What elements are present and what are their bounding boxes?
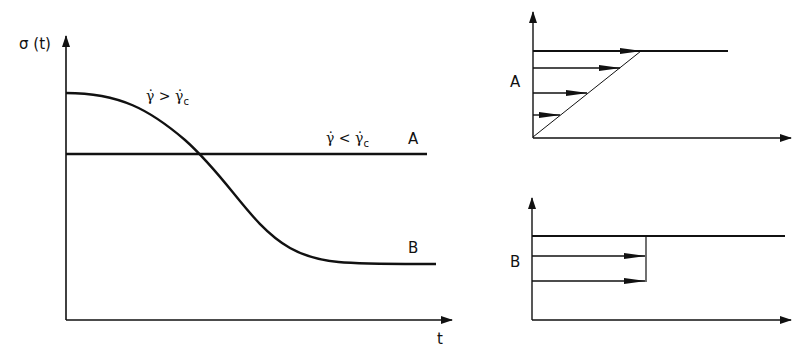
- annotation-gamma-greater: γ̇ > γ̇c: [146, 89, 189, 107]
- curve-B: [66, 93, 436, 264]
- profile-A-diagram: [533, 12, 791, 138]
- profile-B-label: B: [510, 255, 520, 270]
- profile-B-diagram: [532, 198, 791, 320]
- gamma-dot: γ̇: [326, 130, 334, 146]
- operator: >: [159, 88, 171, 104]
- figure-canvas: [0, 0, 810, 356]
- operator: <: [339, 130, 351, 146]
- curve-A-label: A: [408, 132, 418, 147]
- profile-A-label: A: [510, 75, 520, 90]
- main-y-axis-label: σ (t): [19, 37, 51, 52]
- profile-A-ramp: [533, 51, 641, 137]
- main-plot: [66, 36, 452, 320]
- subscript-c: c: [183, 96, 189, 107]
- subscript-c: c: [363, 138, 369, 149]
- curve-B-label: B: [408, 241, 418, 256]
- main-x-axis-label: t: [437, 332, 443, 347]
- annotation-gamma-less: γ̇ < γ̇c: [326, 131, 369, 149]
- gamma-dot: γ̇: [146, 88, 154, 104]
